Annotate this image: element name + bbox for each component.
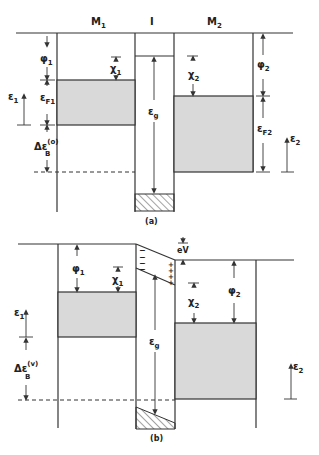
label-phi2-b: φ2 [228, 285, 241, 299]
energy-band-diagram: M1 I M2 φ1 εF1 ε1 Δε(o) [0, 0, 319, 455]
label-phi1-b: φ1 [72, 263, 85, 277]
label-chi1-a: χ1 [110, 63, 121, 77]
label-phi2-a: φ2 [257, 59, 270, 73]
panel-b: − − − − + + + + φ1 χ1 ε1 Δε(v) B [14, 237, 304, 443]
label-eps1-a: ε1 [8, 91, 19, 105]
m1-filled-band-a [57, 80, 135, 125]
label-phi1-a: φ1 [40, 53, 53, 67]
label-chi2-a: χ2 [188, 69, 199, 83]
label-deltaEB-b: Δε(v) [14, 360, 38, 374]
label-epsF1-a: εF1 [40, 92, 55, 106]
label-chi1-b: χ1 [112, 274, 123, 288]
label-epsg-b: εg [149, 336, 160, 350]
label-metal2: M2 [207, 16, 222, 30]
label-eps2-b: ε2 [293, 361, 304, 375]
m2-filled-band-a [174, 96, 253, 172]
label-insulator: I [150, 16, 154, 27]
svg-text:B: B [25, 373, 30, 381]
label-epsg-a: εg [148, 106, 159, 120]
label-eps1-b: ε1 [14, 307, 25, 321]
insulator-valence-band-b [136, 407, 175, 429]
insulator-valence-band-a [135, 194, 174, 211]
negative-charges: − − − − [139, 246, 146, 274]
label-metal1: M1 [91, 16, 106, 30]
label-epsF2-a: εF2 [257, 123, 272, 137]
svg-text:+: + [168, 279, 174, 287]
m1-filled-band-b [58, 292, 136, 337]
label-chi2-b: χ2 [188, 296, 199, 310]
label-eV: eV [177, 246, 189, 255]
svg-text:B: B [45, 150, 50, 158]
m2-filled-band-b [175, 323, 256, 399]
svg-text:−: − [139, 265, 146, 274]
label-eps2-a: ε2 [290, 133, 301, 147]
positive-charges: + + + + [168, 261, 174, 287]
caption-a: (a) [145, 217, 158, 226]
caption-b: (b) [150, 434, 163, 443]
panel-a: M1 I M2 φ1 εF1 ε1 Δε(o) [8, 16, 301, 226]
